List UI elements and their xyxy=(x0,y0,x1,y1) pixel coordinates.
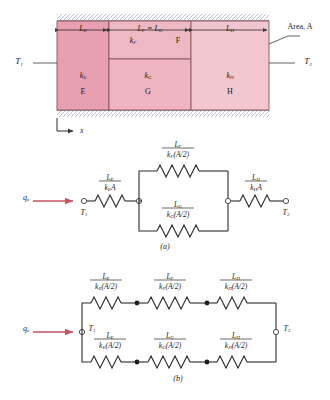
resistor-label-a-E-den: kEA xyxy=(105,183,116,192)
resistor-label-b-bot-E-den: kE(A/2) xyxy=(99,341,121,350)
region-letter-E: E xyxy=(81,87,86,96)
resistor-label-b-bot-H-den: kH(A/2) xyxy=(225,341,248,350)
resistor-label-b-bot-G-den: kG(A/2) xyxy=(159,341,182,350)
heat-transfer-figure: LE LF = LG LH kE E kF F kG G kH H T1 T2 … xyxy=(0,0,330,400)
heat-flux-label-b: qx xyxy=(23,324,30,333)
hatch-top xyxy=(57,14,269,21)
resistor-a-F xyxy=(157,165,199,177)
slab-temp-left: T1 xyxy=(15,56,23,67)
resistor-b-top-F xyxy=(148,297,190,309)
resistor-b-bot-G xyxy=(148,356,190,368)
node-t1-a xyxy=(81,198,86,203)
resistor-label-b-top-H-den: kH(A/2) xyxy=(225,282,248,291)
resistor-a-E xyxy=(95,195,125,207)
slab-region-G xyxy=(109,59,191,110)
node-t1-label-a: T1 xyxy=(81,208,88,217)
heat-flux-label-a: qx xyxy=(23,193,30,202)
node-junction-right-a xyxy=(225,198,230,203)
x-axis-indicator: x xyxy=(57,118,84,135)
resistor-b-bot-E xyxy=(91,356,121,368)
caption-b: (b) xyxy=(173,374,183,383)
resistor-label-a-H-den: kHA xyxy=(250,183,262,192)
area-label: Area, A xyxy=(288,22,313,31)
slab-temp-right: T2 xyxy=(304,56,312,67)
caption-a: (a) xyxy=(160,242,170,251)
slab-region-E xyxy=(57,21,109,110)
wire-a-split-bottom xyxy=(139,201,157,231)
resistor-a-H xyxy=(240,195,270,207)
resistor-label-b-top-F-den: kF(A/2) xyxy=(159,282,181,291)
node-t2-label-b: T2 xyxy=(284,324,291,333)
slab-region-H xyxy=(191,21,269,110)
circuit-a: qx T1 LE kEA LF kF(A/2) LG kG(A/2) xyxy=(23,140,290,251)
area-leader-line xyxy=(269,36,300,44)
resistor-b-bot-H xyxy=(217,356,247,368)
wire-b-left-bottom xyxy=(82,332,91,362)
wire-a-split-top xyxy=(139,171,157,201)
resistor-label-b-top-E-den: kE(A/2) xyxy=(95,282,117,291)
x-axis-label: x xyxy=(79,126,84,135)
node-t2-a xyxy=(283,198,288,203)
node-t2-label-a: T2 xyxy=(283,208,290,217)
node-t2-b xyxy=(273,329,278,334)
slab-diagram: LE LF = LG LH kE E kF F kG G kH H T1 T2 … xyxy=(15,14,312,135)
resistor-b-top-H xyxy=(217,297,247,309)
resistor-b-top-E xyxy=(91,297,121,309)
hatch-bottom xyxy=(57,110,269,117)
resistor-label-a-G-den: kG(A/2) xyxy=(167,210,190,219)
region-letter-H: H xyxy=(227,87,233,96)
resistor-label-a-F-den: kF(A/2) xyxy=(167,150,189,159)
region-letter-F: F xyxy=(176,36,181,45)
circuit-b: qx T1 LE kE(A/2) LF kF(A/2) LH kH(A/2) L… xyxy=(23,272,291,383)
resistor-a-G xyxy=(157,225,199,237)
node-t1-label-b: T1 xyxy=(89,324,96,333)
region-letter-G: G xyxy=(145,87,151,96)
